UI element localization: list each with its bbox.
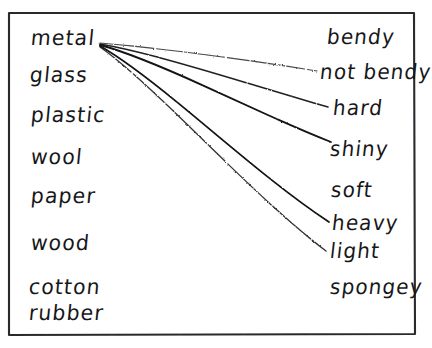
property-label-bendy[interactable]: bendy [326,26,396,47]
material-label-metal[interactable]: metal [30,27,96,48]
material-label-rubber[interactable]: rubber [28,302,105,323]
connection-line-metal-light[interactable] [100,47,326,251]
connection-lines [100,43,331,251]
connection-line-metal-shiny[interactable] [100,45,331,142]
property-label-shiny[interactable]: shiny [329,138,390,159]
material-label-glass[interactable]: glass [29,64,89,85]
property-label-soft[interactable]: soft [330,179,374,200]
property-label-heavy[interactable]: heavy [331,212,400,233]
property-label-spongey[interactable]: spongey [329,276,424,297]
property-label-hard[interactable]: hard [332,97,384,118]
property-label-not-bendy[interactable]: not bendy [319,61,432,82]
worksheet-canvas: metal glass plastic wool paper wood cott… [0,0,432,348]
connection-line-metal-heavy[interactable] [100,46,329,222]
material-label-plastic[interactable]: plastic [30,104,107,125]
material-label-cotton[interactable]: cotton [28,276,102,297]
material-label-wool[interactable]: wool [30,146,84,167]
property-label-light[interactable]: light [329,240,381,261]
material-label-wood[interactable]: wood [30,232,91,253]
material-label-paper[interactable]: paper [30,185,97,206]
